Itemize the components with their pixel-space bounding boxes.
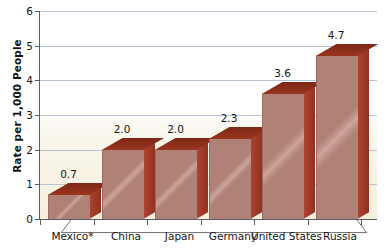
bar-front-face: [155, 150, 197, 219]
x-axis-tick-label: Japan: [165, 230, 194, 242]
bars-layer: 0.72.02.02.33.64.7: [39, 11, 389, 219]
bar-side-face: [143, 143, 155, 219]
bar[interactable]: 2.3: [209, 139, 250, 219]
bar-value-label: 2.3: [209, 112, 250, 124]
bar[interactable]: 2.0: [155, 150, 196, 219]
bar-value-label: 2.0: [155, 123, 196, 135]
bar-value-label: 2.0: [102, 123, 143, 135]
bar[interactable]: 3.6: [262, 94, 303, 219]
bar-front-face: [102, 150, 144, 219]
x-axis-tick-label: China: [111, 230, 141, 242]
bar-front-face: [262, 94, 304, 219]
x-axis-tick: [147, 219, 148, 225]
x-axis-tick: [254, 219, 255, 225]
bar-side-face: [250, 132, 262, 219]
y-axis-title: Rate per 1,000 People: [11, 26, 23, 186]
y-axis-tick-label: 6: [26, 5, 33, 17]
bar[interactable]: 4.7: [316, 56, 357, 219]
bar-front-face: [316, 56, 358, 219]
x-axis-tick-label: Mexico*: [52, 230, 94, 242]
bar-value-label: 4.7: [316, 29, 357, 41]
x-axis-tick-label: Russia: [323, 230, 357, 242]
y-axis-tick-label: 5: [26, 40, 33, 52]
y-axis-tick-label: 2: [26, 144, 33, 156]
bar-side-face: [303, 87, 315, 219]
bar-side-face: [196, 143, 208, 219]
bar-chart: Rate per 1,000 People 0123456 0.72.02.02…: [0, 0, 389, 248]
y-axis-tick-label: 3: [26, 109, 33, 121]
x-axis-tick: [308, 219, 309, 225]
y-axis-tick-label: 0: [26, 213, 33, 225]
y-axis-tick-label: 4: [26, 74, 33, 86]
bar-front-face: [209, 139, 251, 219]
x-axis-tick: [94, 219, 95, 225]
bar[interactable]: 0.7: [48, 195, 89, 219]
bar-side-face: [357, 49, 369, 219]
bar-front-face: [48, 195, 90, 219]
bar[interactable]: 2.0: [102, 150, 143, 219]
x-axis-tick: [361, 219, 362, 225]
x-axis-tick: [40, 219, 41, 225]
x-axis-tick-label: Germany: [209, 230, 257, 242]
x-axis-labels: Mexico*ChinaJapanGermanyUnited StatesRus…: [0, 230, 389, 248]
bar-value-label: 0.7: [48, 168, 89, 180]
y-axis-tick-label: 1: [26, 178, 33, 190]
x-axis-tick: [201, 219, 202, 225]
bar-value-label: 3.6: [262, 67, 303, 79]
x-axis-tick-label: United States: [251, 230, 322, 242]
